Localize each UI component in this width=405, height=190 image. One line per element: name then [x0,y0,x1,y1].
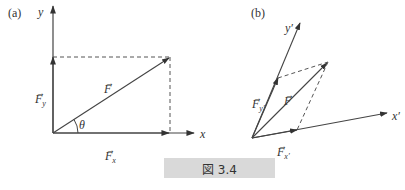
y-prime-axis-label: y′ [285,22,293,34]
vector-f-b-label: →F [284,92,291,108]
theta-label: θ [79,119,85,131]
fx-label: →Fx [105,147,116,165]
x-axis-label: x [200,128,205,140]
panel-a-label: (a) [8,7,21,19]
panel-b-diagram [252,23,387,138]
panel-b-label: (b) [251,7,265,19]
x-prime-axis-label: x′ [392,110,400,122]
fy-label: →Fy [35,90,46,108]
y-axis-label: y [38,6,43,18]
dashed-parallelogram-right [297,62,328,130]
vector-f-label: →F [104,80,111,96]
fy-prime-label: →Fy′ [252,95,265,113]
figure-caption: 図 3.4 [164,158,275,178]
fx-prime-label: →Fx′ [277,143,290,161]
theta-arc [74,120,78,134]
panel-a-diagram [53,6,194,133]
